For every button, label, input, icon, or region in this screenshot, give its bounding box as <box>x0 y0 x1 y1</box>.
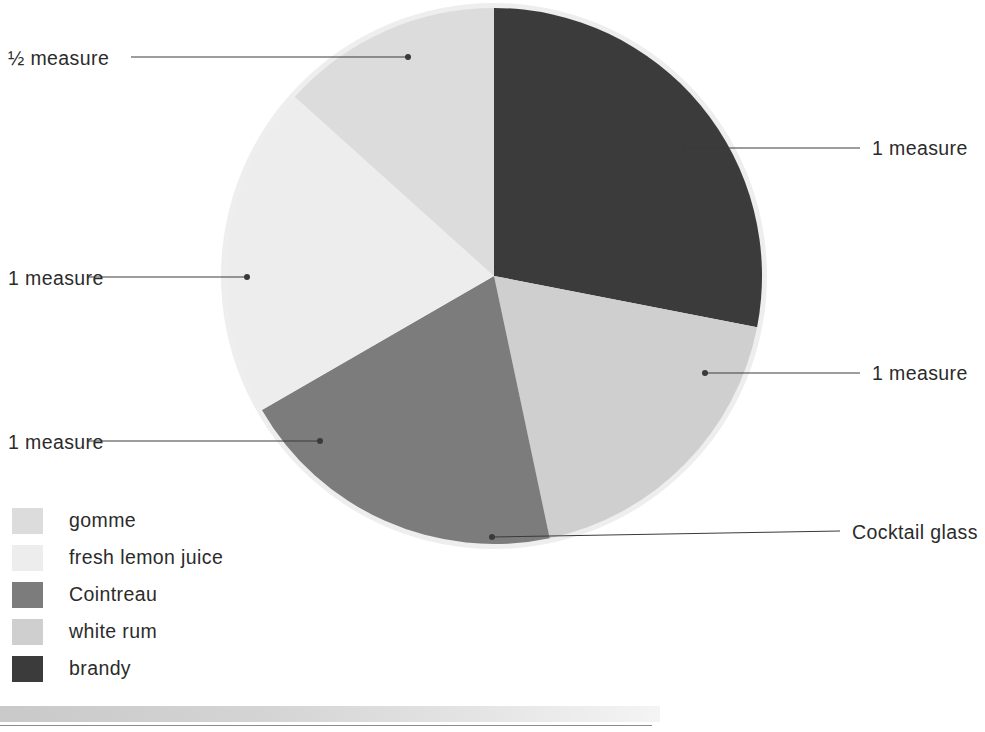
legend-item-label: Cointreau <box>69 583 157 606</box>
legend-item-brandy[interactable]: brandy <box>12 650 272 687</box>
legend-swatch-icon <box>12 656 43 682</box>
legend-item-label: fresh lemon juice <box>69 546 223 569</box>
callout-label-white-rum: 1 measure <box>872 362 968 385</box>
legend-item-label: white rum <box>69 620 157 643</box>
legend-swatch-icon <box>12 582 43 608</box>
footer-band <box>0 706 985 732</box>
legend-item-white-rum[interactable]: white rum <box>12 613 272 650</box>
footer-gradient-bar <box>0 706 660 722</box>
legend-item-gomme[interactable]: gomme <box>12 502 272 539</box>
callout-label-cointreau: 1 measure <box>8 431 104 454</box>
legend-swatch-icon <box>12 619 43 645</box>
leader-dot-white-rum <box>702 370 708 376</box>
callout-label-brandy: 1 measure <box>872 137 968 160</box>
leader-dot-cocktail-glass <box>489 534 495 540</box>
pie-slice-brandy[interactable] <box>494 8 762 327</box>
pie-slices[interactable] <box>226 8 762 544</box>
leader-dot-gomme <box>405 54 411 60</box>
legend-item-label: gomme <box>69 509 136 532</box>
chart-legend: gommefresh lemon juiceCointreauwhite rum… <box>12 502 272 687</box>
legend-swatch-icon <box>12 508 43 534</box>
callout-label-gomme: ½ measure <box>8 47 109 70</box>
footer-rule-line <box>0 725 652 726</box>
pie-chart-page: ½ measure1 measure1 measure1 measure1 me… <box>0 0 985 732</box>
legend-item-fresh-lemon-juice[interactable]: fresh lemon juice <box>12 539 272 576</box>
leader-dot-fresh-lemon-juice <box>244 274 250 280</box>
legend-swatch-icon <box>12 545 43 571</box>
legend-item-label: brandy <box>69 657 131 680</box>
leader-dot-cointreau <box>317 438 323 444</box>
callout-label-fresh-lemon-juice: 1 measure <box>8 267 104 290</box>
legend-item-cointreau[interactable]: Cointreau <box>12 576 272 613</box>
leader-dot-brandy <box>681 145 687 151</box>
callout-label-cocktail-glass: Cocktail glass <box>852 521 978 544</box>
